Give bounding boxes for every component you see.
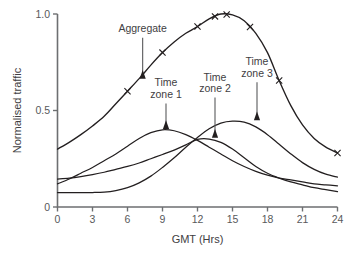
data-point-marker bbox=[247, 24, 253, 30]
y-axis-tick-label: 0 bbox=[44, 201, 50, 213]
traffic-chart-figure: 00.51.003691215182124GMT (Hrs)Normalised… bbox=[0, 0, 362, 257]
data-point-marker bbox=[159, 50, 165, 56]
annotation-label-time-zone-2-line2: zone 2 bbox=[199, 82, 231, 94]
annotation-label-time-zone-1: Time bbox=[155, 76, 178, 88]
annotation-label-time-zone-3-line2: zone 3 bbox=[241, 67, 273, 79]
y-axis-tick-label: 1.0 bbox=[35, 8, 50, 20]
x-axis-tick-label: 18 bbox=[262, 213, 274, 225]
series-line-aggregate bbox=[58, 14, 338, 153]
x-axis-tick-label: 12 bbox=[192, 213, 204, 225]
y-axis-tick-label: 0.5 bbox=[35, 104, 50, 116]
annotation-arrow-head-time-zone-3 bbox=[254, 112, 260, 121]
data-point-marker bbox=[276, 77, 282, 83]
x-axis-tick-label: 6 bbox=[125, 213, 131, 225]
x-axis-tick-label: 9 bbox=[160, 213, 166, 225]
annotation-arrow-head-time-zone-1 bbox=[163, 120, 169, 129]
data-point-marker bbox=[124, 88, 130, 94]
x-axis-title: GMT (Hrs) bbox=[172, 233, 224, 245]
chart-axes bbox=[58, 14, 338, 207]
series-line-time-zone-3 bbox=[58, 121, 338, 193]
annotation-label-time-zone-1-line2: zone 1 bbox=[150, 88, 182, 100]
y-axis-title: Normalised traffic bbox=[11, 67, 23, 153]
data-point-marker bbox=[334, 150, 340, 156]
annotation-arrow-head-time-zone-2 bbox=[212, 129, 218, 138]
x-axis-tick-label: 0 bbox=[55, 213, 61, 225]
data-point-marker bbox=[194, 23, 200, 29]
series-line-time-zone-2 bbox=[58, 139, 338, 192]
chart-svg: 00.51.003691215182124GMT (Hrs)Normalised… bbox=[0, 0, 362, 257]
x-axis-tick-label: 15 bbox=[227, 213, 239, 225]
annotation-label-time-zone-2: Time bbox=[204, 71, 227, 83]
annotation-label-time-zone-3: Time bbox=[246, 55, 269, 67]
x-axis-tick-label: 3 bbox=[90, 213, 96, 225]
x-axis-tick-label: 21 bbox=[297, 213, 309, 225]
x-axis-tick-label: 24 bbox=[332, 213, 344, 225]
annotation-label-aggregate: Aggregate bbox=[118, 22, 167, 34]
